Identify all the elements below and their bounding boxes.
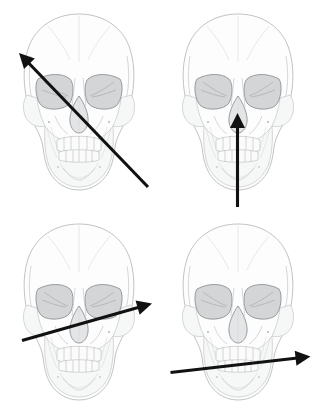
- skull-illustration: [23, 14, 134, 190]
- left-eye-socket: [194, 284, 231, 319]
- panel-bottom-right: [159, 210, 318, 419]
- skull-illustration: [182, 224, 293, 400]
- panel-top-left: [0, 0, 159, 210]
- skull-direction-figure: [0, 0, 317, 419]
- panel-top-right: [159, 0, 318, 210]
- right-eye-socket: [85, 75, 122, 110]
- panel-bottom-left: [0, 210, 159, 419]
- left-eye-socket: [36, 284, 73, 319]
- right-eye-socket: [244, 284, 281, 319]
- right-eye-socket: [244, 75, 281, 110]
- left-eye-socket: [194, 75, 231, 110]
